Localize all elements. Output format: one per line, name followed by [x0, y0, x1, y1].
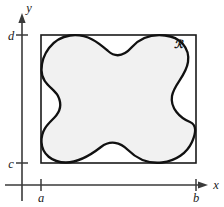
- arrow-up-icon: [18, 13, 25, 23]
- y-tick-label-c: c: [8, 157, 14, 171]
- y-axis-label: y: [24, 1, 32, 15]
- region-label: ℛ: [174, 38, 184, 50]
- x-tick-label-a: a: [38, 191, 44, 205]
- region-shape: [41, 35, 195, 163]
- arrow-right-icon: [198, 181, 208, 188]
- x-tick-label-b: b: [193, 191, 199, 205]
- x-axis-label: x: [212, 178, 219, 192]
- figure-canvas: y x d c a b ℛ: [0, 0, 224, 207]
- y-tick-label-d: d: [8, 29, 15, 43]
